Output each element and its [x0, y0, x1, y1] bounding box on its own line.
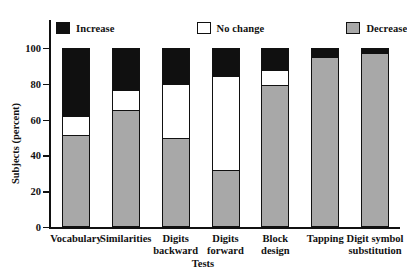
- legend-swatch-no-change-icon: [197, 22, 211, 34]
- y-tick-0: [43, 227, 51, 228]
- y-tick-40: [43, 155, 51, 156]
- bar-tapping: [311, 48, 339, 227]
- y-tick-label-80: 80: [0, 78, 41, 89]
- y-tick-100: [43, 48, 51, 49]
- segment-decrease: [312, 58, 338, 226]
- bar-digit-symbol-substitution: [361, 48, 389, 227]
- segment-decrease: [163, 139, 189, 226]
- x-axis-line: [49, 227, 400, 229]
- legend-entry-increase: Increase: [56, 22, 115, 34]
- segment-no-change: [113, 90, 139, 111]
- segment-increase: [262, 49, 288, 70]
- segment-no-change: [163, 84, 189, 139]
- x-axis-title: Tests: [0, 258, 406, 269]
- segment-decrease: [362, 54, 388, 226]
- y-tick-80: [43, 84, 51, 85]
- legend-entry-no-change: No change: [197, 22, 265, 34]
- bar-block-design: [261, 48, 289, 227]
- y-axis-line: [49, 20, 51, 228]
- legend-label-decrease: Decrease: [366, 23, 407, 34]
- segment-increase: [63, 49, 89, 116]
- segment-increase: [312, 49, 338, 58]
- legend-swatch-decrease-icon: [346, 22, 360, 34]
- segment-no-change: [63, 116, 89, 135]
- segment-increase: [113, 49, 139, 90]
- segment-decrease: [63, 136, 89, 226]
- y-tick-label-60: 60: [0, 114, 41, 125]
- y-tick-60: [43, 120, 51, 121]
- segment-decrease: [113, 111, 139, 226]
- bar-similarities: [112, 48, 140, 227]
- y-tick-label-40: 40: [0, 150, 41, 161]
- segment-increase: [213, 49, 239, 76]
- legend-swatch-increase-icon: [56, 22, 70, 34]
- bar-vocabulary: [62, 48, 90, 227]
- legend-entry-decrease: Decrease: [346, 22, 407, 34]
- segment-no-change: [213, 76, 239, 172]
- bar-digits-backward: [162, 48, 190, 227]
- chart-legend: Increase No change Decrease: [52, 18, 400, 38]
- segment-increase: [163, 49, 189, 84]
- legend-label-increase: Increase: [76, 23, 115, 34]
- x-category-label: Digit symbol substitution: [344, 233, 406, 256]
- y-axis-title: Subjects (percent): [10, 84, 21, 204]
- y-tick-label-0: 0: [0, 222, 41, 233]
- segment-no-change: [262, 70, 288, 86]
- legend-label-no-change: No change: [217, 23, 265, 34]
- y-tick-label-100: 100: [0, 43, 41, 54]
- y-tick-label-20: 20: [0, 186, 41, 197]
- bar-digits-forward: [212, 48, 240, 227]
- segment-decrease: [213, 171, 239, 226]
- segment-decrease: [262, 86, 288, 226]
- y-tick-20: [43, 191, 51, 192]
